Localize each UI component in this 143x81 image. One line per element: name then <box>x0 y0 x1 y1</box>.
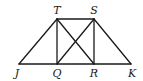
label-K: K <box>127 67 137 80</box>
segment-SK <box>94 19 131 64</box>
segments <box>19 19 131 64</box>
label-R: R <box>89 67 98 80</box>
trapezoid-diagram: T S J Q R K <box>0 0 143 81</box>
label-T: T <box>53 4 62 17</box>
label-J: J <box>13 67 20 80</box>
label-Q: Q <box>52 67 61 80</box>
segment-JT <box>19 19 57 64</box>
label-S: S <box>90 4 98 17</box>
